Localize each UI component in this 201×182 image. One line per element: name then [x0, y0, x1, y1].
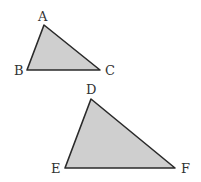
diagram: A B C D E F [0, 0, 201, 182]
triangle-def [65, 99, 175, 168]
vertex-label-a: A [37, 9, 48, 24]
vertex-label-e: E [51, 161, 61, 176]
vertex-label-c: C [105, 63, 115, 78]
vertex-label-f: F [181, 161, 190, 176]
vertex-label-d: D [86, 82, 96, 97]
vertex-label-b: B [14, 63, 24, 78]
triangle-abc [27, 25, 100, 70]
